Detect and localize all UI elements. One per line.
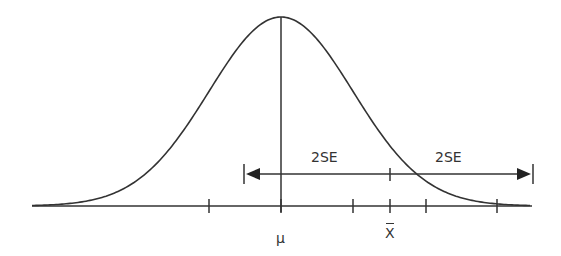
left-span-label: 2SE	[311, 150, 338, 164]
right-span-label: 2SE	[435, 150, 462, 164]
arrow-right-icon	[517, 168, 531, 180]
xbar-label: X	[385, 226, 395, 240]
mu-label: μ	[276, 231, 285, 245]
xbar-symbol: X	[385, 226, 395, 240]
arrow-left-icon	[246, 168, 260, 180]
diagram-canvas	[0, 0, 561, 256]
